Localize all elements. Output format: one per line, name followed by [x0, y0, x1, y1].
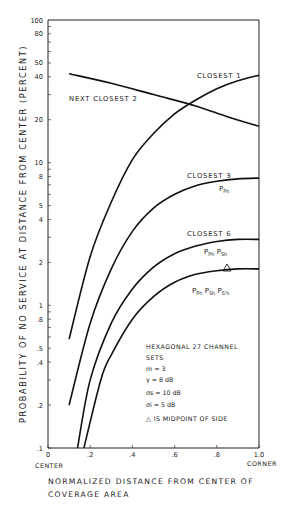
annotation-pph: PPh	[219, 185, 229, 194]
svg-text:m = 3: m = 3	[146, 365, 165, 372]
x-label-corner: CORNER	[247, 460, 277, 467]
x-tick-label: .4	[129, 451, 135, 459]
annotation-pph-psh: PPh PSh	[204, 248, 227, 257]
svg-text:γ = 8 dB: γ = 8 dB	[146, 376, 173, 384]
probability-chart: 100805040201085421.8.5.4.2.1 0.2.4.6.81.…	[0, 0, 293, 508]
svg-text:PPh PSh: PPh PSh	[204, 248, 227, 257]
parameter-legend: HEXAGONAL 27 CHANNEL SETS m = 3 γ = 8 dB…	[146, 343, 238, 422]
label-closest-6: CLOSEST 6	[187, 230, 231, 238]
y-tick-label: 100	[30, 17, 43, 25]
y-tick-label: .1	[37, 445, 43, 453]
y-tick-label: 50	[35, 59, 43, 67]
y-axis-label: PROBABILITY OF NO SERVICE AT DISTANCE FR…	[18, 45, 28, 423]
y-tick-label: .5	[37, 345, 43, 353]
y-tick-label: 20	[35, 116, 43, 124]
x-tick-label: .8	[214, 451, 220, 459]
x-axis-label-line2: COVERAGE AREA	[48, 490, 130, 499]
svg-text:SETS: SETS	[146, 354, 164, 361]
svg-text:PPh: PPh	[219, 185, 229, 194]
label-closest-1: CLOSEST 1	[197, 72, 241, 80]
y-tick-label: 8	[39, 173, 43, 181]
y-tick-label: .2	[37, 402, 43, 410]
y-tick-label: 10	[35, 159, 43, 167]
x-axis-label-line1: NORMALIZED DISTANCE FROM CENTER OF	[48, 477, 254, 486]
y-tick-label: 1	[39, 302, 43, 310]
y-tick-label: .8	[37, 316, 43, 324]
x-ticks: 0.2.4.6.81.0	[46, 445, 264, 459]
x-tick-label: .6	[171, 451, 177, 459]
label-next-closest-2: NEXT CLOSEST 2	[69, 95, 138, 103]
x-label-center: CENTER	[35, 462, 63, 469]
x-tick-label: .2	[87, 451, 93, 459]
y-tick-label: 40	[35, 73, 43, 81]
svg-text:σi = 5 dB: σi = 5 dB	[146, 401, 175, 408]
y-tick-label: 80	[35, 30, 43, 38]
svg-text:HEXAGONAL 27 CHANNEL: HEXAGONAL 27 CHANNEL	[146, 343, 238, 350]
svg-text:△ IS MIDPOINT OF SIDE: △ IS MIDPOINT OF SIDE	[146, 415, 228, 422]
annotation-pph-psh-psph: PPh PSh PS'h	[192, 287, 229, 296]
y-tick-label: 2	[39, 259, 43, 267]
x-tick-label: 1.0	[254, 451, 265, 459]
y-tick-label: 5	[39, 202, 43, 210]
svg-text:σs = 10 dB: σs = 10 dB	[146, 389, 181, 396]
y-tick-label: .4	[37, 359, 43, 367]
svg-text:PPh PSh PS'h: PPh PSh PS'h	[192, 287, 229, 296]
x-tick-label: 0	[46, 451, 50, 459]
y-tick-label: 4	[39, 216, 43, 224]
label-closest-3: CLOSEST 3	[187, 172, 231, 180]
